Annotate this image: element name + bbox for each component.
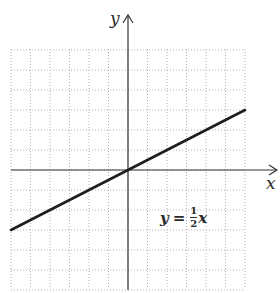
equation-label: y = 1 2 x [160, 206, 207, 229]
equation-lhs: y [160, 209, 169, 227]
fraction-one-half: 1 2 [190, 206, 197, 229]
x-axis-label: x [266, 173, 276, 193]
equation-equals: = [173, 209, 186, 227]
fraction-denominator: 2 [190, 219, 197, 229]
x-axis [11, 165, 277, 175]
y-axis-label: y [110, 8, 120, 28]
y-axis [123, 15, 133, 290]
graph-canvas [0, 0, 280, 293]
fraction-numerator: 1 [190, 206, 197, 216]
equation-var: x [198, 209, 207, 227]
